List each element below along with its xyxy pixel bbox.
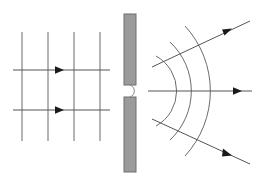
barrier-upper-segment [124,14,136,85]
diffraction-diagram-canvas [0,0,259,182]
diffraction-figure [0,0,259,182]
barrier-lower-segment [124,97,136,172]
